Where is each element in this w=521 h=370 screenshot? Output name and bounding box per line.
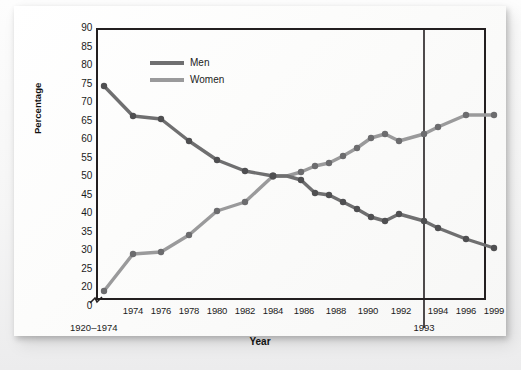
y-axis-title: Percentage	[32, 83, 43, 134]
x-tick-1994: 1994	[428, 305, 448, 316]
y-tick-45: 45	[64, 190, 92, 200]
y-tick-50: 50	[64, 171, 92, 181]
y-tick-20: 20	[64, 282, 92, 292]
screenshot-root: 90 85 80 75 70 65 60 55 50 45 40 35 30 2…	[0, 0, 521, 370]
x-tick-1986: 1986	[294, 305, 314, 316]
chart-legend: Men Women	[150, 54, 270, 88]
y-tick-70: 70	[64, 97, 92, 107]
x-tick-1980: 1980	[207, 305, 227, 316]
x-tick-1974: 1974	[123, 305, 143, 316]
x-tick-1978: 1978	[179, 305, 199, 316]
x-axis-ticks: 1974 1976 1978 1980 1982 1984 1986 1988 …	[14, 305, 506, 321]
y-tick-35: 35	[64, 227, 92, 237]
y-tick-85: 85	[64, 42, 92, 52]
x-tick-1990: 1990	[358, 305, 378, 316]
x-tick-1988: 1988	[326, 305, 346, 316]
x-tick-1976: 1976	[151, 305, 171, 316]
y-tick-65: 65	[64, 116, 92, 126]
legend-label-women: Women	[190, 74, 224, 85]
y-tick-75: 75	[64, 79, 92, 89]
y-tick-60: 60	[64, 134, 92, 144]
y-tick-90: 90	[64, 23, 92, 33]
y-tick-55: 55	[64, 153, 92, 163]
chart-card: 90 85 80 75 70 65 60 55 50 45 40 35 30 2…	[14, 6, 506, 336]
x-tick-first-category: 1920–1974	[70, 322, 118, 333]
legend-entry-women: Women	[150, 71, 270, 88]
y-tick-30: 30	[64, 245, 92, 255]
line-chart: 90 85 80 75 70 65 60 55 50 45 40 35 30 2…	[14, 6, 506, 336]
y-tick-40: 40	[64, 208, 92, 218]
legend-label-men: Men	[190, 57, 209, 68]
x-axis-title: Year	[14, 336, 506, 347]
x-tick-1982: 1982	[235, 305, 255, 316]
y-axis-ticks: 90 85 80 75 70 65 60 55 50 45 40 35 30 2…	[58, 28, 92, 300]
x-tick-1999: 1999	[484, 305, 504, 316]
legend-entry-men: Men	[150, 54, 270, 71]
y-tick-25: 25	[64, 264, 92, 274]
y-tick-80: 80	[64, 60, 92, 70]
legend-swatch-men	[150, 61, 184, 65]
x-tick-1996: 1996	[456, 305, 476, 316]
legend-swatch-women	[150, 78, 184, 82]
x-tick-1993-divider-label: 1993	[413, 322, 434, 333]
x-tick-1992: 1992	[391, 305, 411, 316]
x-tick-1984: 1984	[263, 305, 283, 316]
